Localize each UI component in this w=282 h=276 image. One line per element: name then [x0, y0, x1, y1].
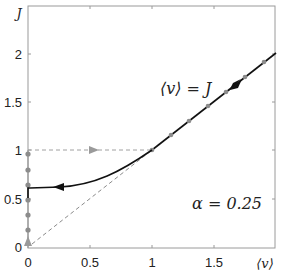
x-axis-label: ⟨v⟩ — [256, 256, 274, 271]
y-axis-label: J — [13, 6, 22, 21]
y-tick-label: 1 — [15, 143, 22, 158]
x-tick-label: 1.5 — [205, 255, 223, 270]
diagonal-annotation: ⟨v⟩ = J — [160, 79, 213, 98]
arrow-left-icon — [53, 183, 64, 191]
reference-diagonal-dashed — [32, 150, 152, 244]
arrow-up-icon — [24, 236, 32, 246]
y-tick-label: 1.5 — [4, 95, 22, 110]
x-tick-label: 1 — [148, 255, 155, 270]
x-tick-label: 0 — [24, 255, 31, 270]
alpha-annotation: α = 0.25 — [192, 194, 262, 213]
phase-diagram-chart: 0 0.5 1 1.5 ⟨v⟩ 0 0.5 1 1.5 2 J ⟨v⟩ = J … — [0, 0, 282, 276]
y-tick-label: 0 — [15, 240, 22, 255]
y-tick-label: 0.5 — [4, 192, 22, 207]
flow-curve — [28, 150, 152, 198]
x-tick-label: 0.5 — [81, 255, 99, 270]
arrow-right-icon — [89, 146, 99, 154]
y-axis-ticks — [28, 54, 275, 199]
y-tick-label: 2 — [15, 47, 22, 62]
